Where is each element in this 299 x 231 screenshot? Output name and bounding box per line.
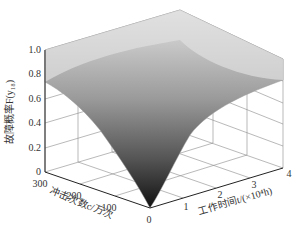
svg-text:1.0: 1.0 (29, 44, 42, 55)
t-axis-label: 工作时间t/(×10⁴h) (197, 184, 274, 218)
svg-text:0.8: 0.8 (29, 68, 42, 79)
svg-text:0.4: 0.4 (29, 117, 42, 128)
svg-text:0: 0 (36, 166, 41, 177)
z-axis-ticks: 0 0.2 0.4 0.6 0.8 1.0 (29, 44, 42, 177)
svg-text:0: 0 (147, 214, 152, 225)
z-axis-label: 故障概率F(y₁₈) (3, 80, 16, 144)
svg-text:1: 1 (184, 201, 189, 212)
svg-text:300: 300 (33, 178, 48, 189)
svg-text:0.6: 0.6 (29, 93, 42, 104)
svg-text:4: 4 (287, 168, 292, 179)
svg-text:0.2: 0.2 (29, 142, 42, 153)
surface-plot: 0 0.2 0.4 0.6 0.8 1.0 300 200 100 0 1 2 … (0, 0, 299, 231)
